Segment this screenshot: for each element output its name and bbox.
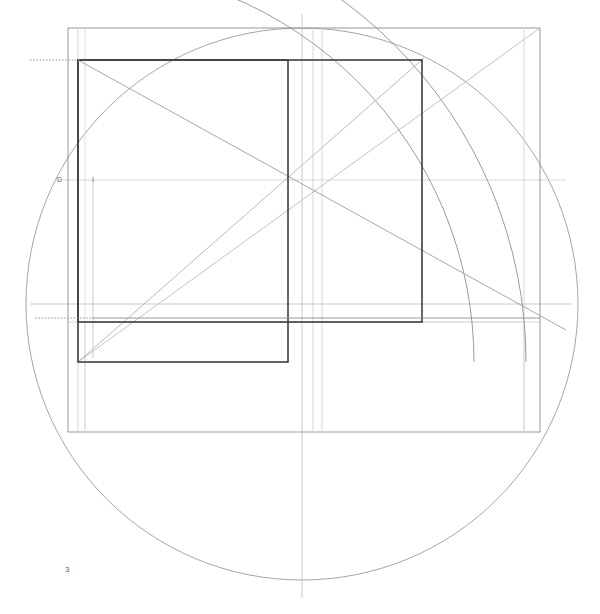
arc-inner — [78, 0, 474, 362]
heavy-rectangle-right — [78, 60, 422, 322]
vertical-construction-lines — [78, 28, 524, 432]
point-label-d: D — [57, 176, 62, 183]
heavy-rectangle-left — [78, 60, 288, 362]
outer-rectangle-group — [68, 28, 540, 432]
figure-canvas: D I 3 — [0, 0, 600, 614]
construction-axes-group — [30, 14, 572, 598]
plate-number: 3 — [65, 565, 70, 574]
geometric-construction-drawing — [0, 0, 600, 614]
inner-faint-rectangle — [85, 322, 524, 432]
dotted-leaders-group — [30, 60, 540, 318]
point-label-i: I — [92, 176, 94, 183]
diagonal-rising-minor — [78, 58, 424, 362]
outer-rectangle — [68, 28, 540, 432]
